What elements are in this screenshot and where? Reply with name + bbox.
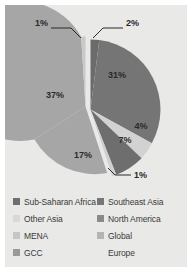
- legend-swatch-other-asia: [13, 215, 20, 222]
- legend-item-sub-saharan-africa[interactable]: Sub-Saharan Africa: [13, 193, 97, 210]
- legend-swatch-north-america: [97, 215, 104, 222]
- legend-label-north-america: North America: [108, 214, 161, 224]
- legend-swatch-southeast-asia: [97, 198, 104, 205]
- data-label-sub-saharan-africa: 31%: [108, 70, 126, 80]
- legend-swatch-europe: [97, 249, 104, 256]
- legend-label-mena: MENA: [24, 231, 48, 241]
- legend-item-mena[interactable]: MENA: [13, 227, 97, 244]
- legend-swatch-gcc: [13, 249, 20, 256]
- legend-label-global: Global: [108, 231, 132, 241]
- legend-item-gcc[interactable]: GCC: [13, 244, 97, 261]
- legend-label-other-asia: Other Asia: [24, 214, 63, 224]
- legend-item-europe[interactable]: Europe: [97, 244, 185, 261]
- legend-label-europe: Europe: [108, 248, 135, 258]
- data-label-bottom-right: 1%: [134, 170, 147, 180]
- pie-svg: 1% 2% 31% 4% 7% 1% 17% 37%: [5, 5, 187, 191]
- data-label-gcc: 17%: [74, 150, 92, 160]
- chart-legend: Sub-Saharan Africa Southeast Asia Other …: [13, 193, 185, 263]
- chart-panel: 1% 2% 31% 4% 7% 1% 17% 37% Sub-Saharan A…: [5, 5, 187, 267]
- data-label-mena: 37%: [46, 90, 64, 100]
- legend-item-north-america[interactable]: North America: [97, 210, 185, 227]
- data-label-other-asia: 4%: [134, 121, 147, 131]
- data-label-north-america: 7%: [118, 135, 131, 145]
- legend-swatch-global: [97, 232, 104, 239]
- legend-item-global[interactable]: Global: [97, 227, 185, 244]
- legend-label-sub-saharan-africa: Sub-Saharan Africa: [24, 197, 96, 207]
- legend-swatch-sub-saharan-africa: [13, 198, 20, 205]
- legend-label-gcc: GCC: [24, 248, 43, 258]
- legend-item-southeast-asia[interactable]: Southeast Asia: [97, 193, 185, 210]
- data-label-top-right: 2%: [126, 18, 139, 28]
- data-label-top-left: 1%: [35, 18, 48, 28]
- legend-item-other-asia[interactable]: Other Asia: [13, 210, 97, 227]
- legend-swatch-mena: [13, 232, 20, 239]
- legend-label-southeast-asia: Southeast Asia: [108, 197, 163, 207]
- leader-line-top-right: [93, 28, 123, 38]
